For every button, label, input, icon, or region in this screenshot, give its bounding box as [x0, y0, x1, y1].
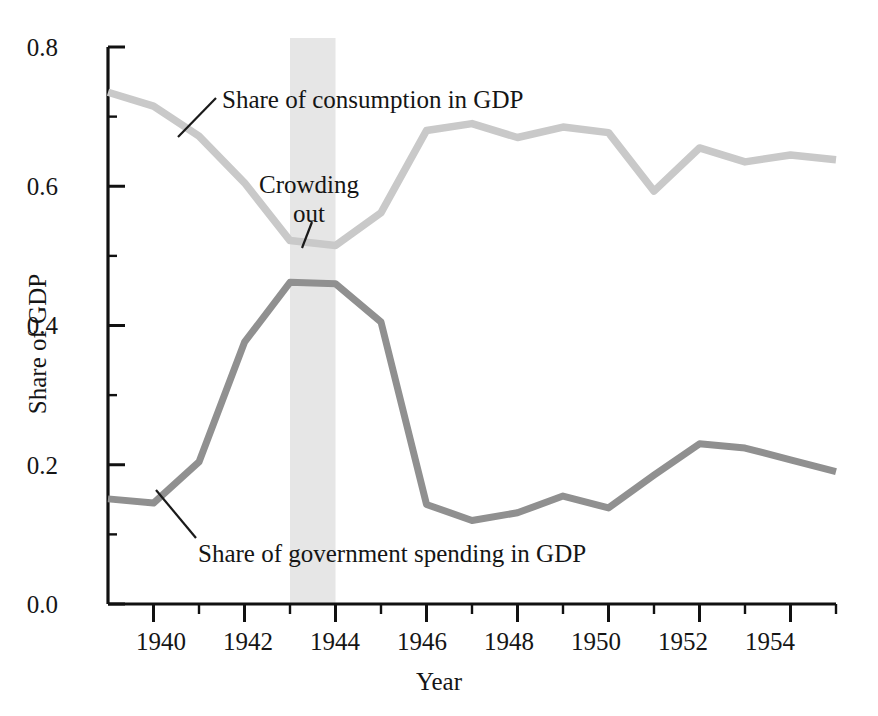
crowding-line-1: Crowding: [259, 171, 359, 198]
xtick-label-1952: 1952: [638, 629, 728, 654]
annotation-government-label: Share of government spending in GDP: [198, 540, 586, 568]
xtick-label-1942: 1942: [203, 629, 293, 654]
crowding-out-shaded-band: [290, 38, 336, 604]
ytick-label-1: 0.6: [0, 174, 58, 199]
xtick-label-1946: 1946: [377, 629, 467, 654]
annotation-leader-lines: [156, 98, 312, 538]
xtick-label-1954: 1954: [725, 629, 815, 654]
xtick-label-1944: 1944: [290, 629, 380, 654]
ytick-label-0: 0.8: [0, 35, 58, 60]
annotation-crowding-out-label: Crowdingout: [253, 170, 365, 228]
chart-figure: 0.8 0.6 0.4 0.2 0.0 1940 1942 1944 1946 …: [0, 0, 878, 716]
xtick-label-1940: 1940: [116, 629, 206, 654]
chart-axes: [108, 47, 836, 622]
crowding-line-2: out: [293, 200, 325, 227]
data-series-lines: [108, 92, 836, 520]
ytick-label-4: 0.0: [0, 592, 58, 617]
ytick-label-3: 0.2: [0, 453, 58, 478]
annotation-consumption-label: Share of consumption in GDP: [222, 86, 523, 114]
xtick-label-1948: 1948: [464, 629, 554, 654]
x-axis-title: Year: [389, 668, 489, 696]
xtick-label-1950: 1950: [551, 629, 641, 654]
y-axis-title: Share of GDP: [24, 244, 52, 444]
